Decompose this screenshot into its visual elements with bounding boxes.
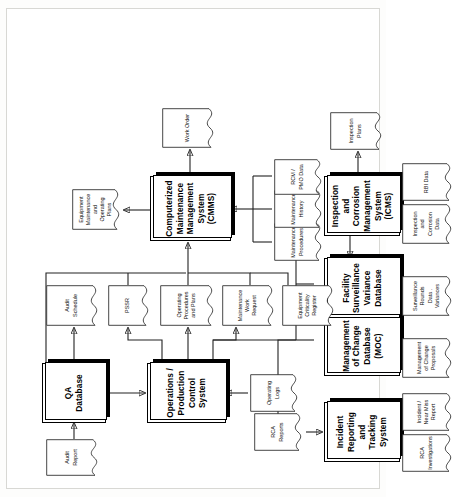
document-label: Surveillance Rounds Data . Variances (402, 276, 456, 316)
document-surveillance-data[interactable]: Surveillance Rounds Data . Variances (402, 276, 456, 316)
flowchart-canvas: QA Database Operations / Production Cont… (10, 12, 376, 486)
document-maint-history[interactable]: Maintenance History (274, 190, 326, 228)
document-rcm-pmo-data[interactable]: RCM / PMO Data (274, 159, 326, 195)
document-operating-procs[interactable]: Operating Procedures and Plans (160, 285, 218, 326)
document-label: Management of Change Proposals (402, 338, 456, 378)
system-label: QA Database (63, 367, 84, 419)
document-label: PSSR (108, 285, 153, 326)
document-rca-investigations[interactable]: RCA Investigations (402, 434, 456, 472)
document-label: RCA Investigations (402, 434, 456, 472)
document-label: Operating Procedures and Plans (160, 285, 218, 326)
document-label: Maintenance History (274, 190, 326, 228)
system-box-qa-database[interactable]: QA Database (42, 363, 106, 423)
document-maint-work-request[interactable]: Maintenance Work Request (222, 285, 278, 326)
system-label: Facility Surveillance Variance Database (341, 262, 383, 314)
system-box-icms[interactable]: Inspection and Corrosion Management Syst… (324, 176, 400, 236)
document-label: Equipment Criticality Register (282, 285, 338, 326)
document-label: Inspection Plans (330, 112, 386, 150)
document-label: RCA Reports (254, 413, 306, 451)
document-equip-maint-plans[interactable]: Equipment Maintenance and Operating Plan… (72, 189, 124, 230)
scanned-sheet: QA Database Operations / Production Cont… (7, 9, 379, 488)
document-label: Maintenance Work Request (222, 285, 278, 326)
document-operating-logs[interactable]: Operating Logs (250, 374, 302, 412)
document-label: Incident / Near Miss Report (402, 393, 456, 431)
system-label: Incident Reporting and Tracking System (335, 406, 388, 458)
document-label: Work Order (162, 108, 218, 148)
document-audit-report[interactable]: Audit Report (46, 439, 102, 476)
document-inspection-plans[interactable]: Inspection Plans (330, 112, 386, 150)
document-rca-reports[interactable]: RCA Reports (254, 413, 306, 451)
document-work-order[interactable]: Work Order (162, 108, 218, 148)
document-moc-proposals[interactable]: Management of Change Proposals (402, 338, 456, 378)
document-label: Inspection and Corrosion Data (402, 204, 456, 244)
document-label: Operating Logs (250, 374, 302, 412)
document-audit-schedule[interactable]: Audit Schedule (46, 285, 102, 326)
system-box-cmms[interactable]: Computerized Maintenance Management Syst… (150, 176, 231, 241)
system-label: Management of Change Database (MOC) (341, 320, 383, 372)
document-label: Audit Schedule (46, 285, 102, 326)
system-label: Inspection and Corrosion Management Syst… (330, 180, 394, 232)
system-label: Computerized Maintenance Management Syst… (164, 180, 217, 237)
document-maint-procedures[interactable]: Maintenance Procedures (274, 223, 326, 261)
document-label: Audit Report (46, 439, 102, 476)
document-label: Maintenance Procedures (274, 223, 326, 261)
document-pssr[interactable]: PSSR (108, 285, 153, 326)
document-incident-near-miss[interactable]: Incident / Near Miss Report (402, 393, 456, 431)
document-equip-criticality[interactable]: Equipment Criticality Register (282, 285, 338, 326)
document-label: Equipment Maintenance and Operating Plan… (72, 189, 124, 230)
system-box-incident-reporting-tracking[interactable]: Incident Reporting and Tracking System (324, 402, 400, 462)
document-label: RBI Data (402, 163, 456, 201)
system-box-operations-production-control[interactable]: Operations / Production Control System (147, 363, 226, 423)
document-rbi-data[interactable]: RBI Data (402, 163, 456, 201)
document-label: RCM / PMO Data (274, 159, 326, 195)
system-label: Operations / Production Control System (165, 367, 207, 419)
document-inspection-corr[interactable]: Inspection and Corrosion Data (402, 204, 456, 244)
